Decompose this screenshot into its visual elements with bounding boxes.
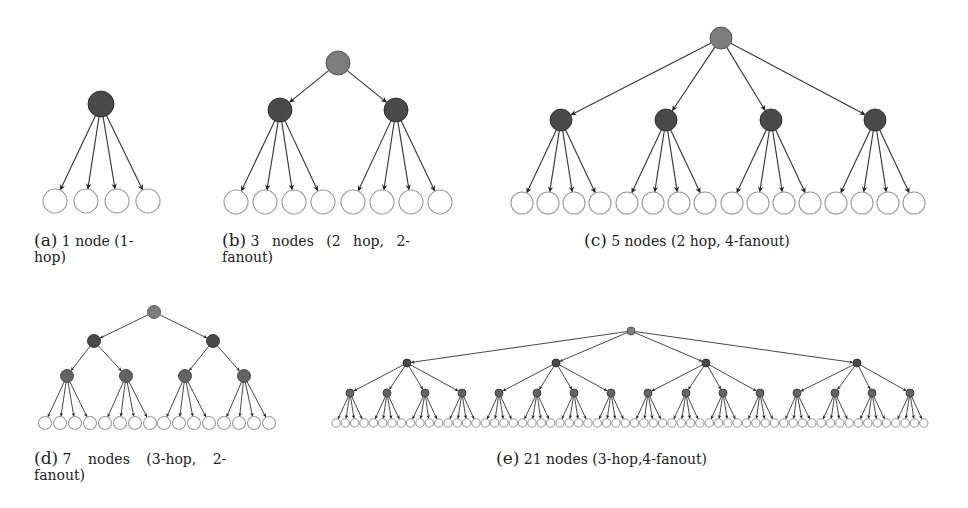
edge-arrow xyxy=(799,397,810,419)
leaf-node xyxy=(747,192,769,214)
leaf-node xyxy=(770,419,778,427)
leaf-node xyxy=(341,419,349,427)
caption-a-tag: (a) xyxy=(34,230,57,250)
root-node xyxy=(710,27,732,49)
edge-arrow xyxy=(180,382,184,416)
edge-arrow xyxy=(358,121,391,191)
caption-e-tag: (e) xyxy=(496,448,519,468)
edge-arrow xyxy=(103,117,115,189)
caption-d: (d) 7 nodes (3-hop, 2- fanout) xyxy=(34,450,304,483)
caption-a: (a) 1 node (1- hop) xyxy=(34,232,184,265)
leaf-node xyxy=(658,419,666,427)
leaf-node xyxy=(640,419,648,427)
leaf-node xyxy=(882,419,890,427)
leaf-node xyxy=(472,419,480,427)
leaf-node xyxy=(642,192,664,214)
edge-arrow xyxy=(267,122,278,190)
edge-arrow xyxy=(731,43,865,114)
internal-node xyxy=(864,109,886,131)
internal-node xyxy=(383,389,391,397)
leaf-node xyxy=(406,419,414,427)
tree-a-1-node xyxy=(43,91,160,213)
edge-arrow xyxy=(160,315,207,338)
leaf-node xyxy=(158,417,171,430)
internal-node xyxy=(756,389,764,397)
leaf-node xyxy=(360,419,368,427)
caption-e: (e) 21 nodes (3-hop,4-fanout) xyxy=(496,450,816,467)
internal-node xyxy=(550,109,572,131)
leaf-node xyxy=(43,189,67,213)
leaf-node xyxy=(490,419,498,427)
edge-arrow xyxy=(247,382,266,417)
nodes xyxy=(43,91,160,213)
leaf-node xyxy=(388,419,396,427)
leaf-node xyxy=(892,419,900,427)
leaf-node xyxy=(836,419,844,427)
leaf-node xyxy=(593,419,601,427)
edge-arrow xyxy=(354,365,403,391)
leaf-node xyxy=(399,190,423,214)
leaf-node xyxy=(724,419,732,427)
internal-node xyxy=(853,359,861,367)
edge-arrow xyxy=(650,397,661,419)
leaf-node xyxy=(54,417,67,430)
edge-arrow xyxy=(798,397,802,418)
caption-b-tag: (b) xyxy=(222,230,246,250)
leaf-node xyxy=(509,419,517,427)
root-node xyxy=(627,327,635,335)
leaf-node xyxy=(537,192,559,214)
internal-node xyxy=(570,389,578,397)
edge-arrow xyxy=(558,366,572,389)
edge-arrow xyxy=(635,333,702,362)
leaf-node xyxy=(799,192,821,214)
internal-node xyxy=(120,370,133,383)
edge-arrow xyxy=(401,121,434,191)
leaf-node xyxy=(686,419,694,427)
edge-arrow xyxy=(167,382,182,417)
leaf-node xyxy=(780,419,788,427)
internal-node xyxy=(682,389,690,397)
edge-arrow xyxy=(880,130,909,193)
edges xyxy=(48,315,266,417)
edge-arrow xyxy=(560,365,608,391)
leaf-node xyxy=(630,419,638,427)
tree-b-3-nodes xyxy=(224,51,452,214)
caption-c-line1: 5 nodes (2 hop, 4-fanout) xyxy=(611,233,790,249)
leaf-node xyxy=(253,190,277,214)
leaf-node xyxy=(612,419,620,427)
edge-arrow xyxy=(525,397,536,419)
internal-node xyxy=(644,389,652,397)
leaf-node xyxy=(105,189,129,213)
internal-node xyxy=(88,335,101,348)
leaf-node xyxy=(39,417,52,430)
leaf-node xyxy=(721,192,743,214)
leaf-node xyxy=(69,417,82,430)
edge-arrow xyxy=(217,346,239,371)
internal-node xyxy=(495,389,503,397)
caption-b-line2: fanout) xyxy=(222,249,273,265)
nodes xyxy=(332,327,928,427)
internal-node xyxy=(61,370,74,383)
edge-arrow xyxy=(841,130,870,193)
internal-node xyxy=(868,389,876,397)
leaf-node xyxy=(714,419,722,427)
leaf-node xyxy=(616,192,638,214)
edge-arrow xyxy=(672,47,714,110)
edge-arrow xyxy=(776,130,805,193)
edge-arrow xyxy=(98,346,121,371)
edge-arrow xyxy=(709,365,756,391)
edges xyxy=(60,116,142,190)
internal-node xyxy=(533,389,541,397)
edge-arrow xyxy=(671,130,700,193)
leaf-node xyxy=(462,419,470,427)
leaf-node xyxy=(752,419,760,427)
leaf-node xyxy=(248,417,261,430)
leaf-node xyxy=(434,419,442,427)
caption-e-line1: 21 nodes (3-hop,4-fanout) xyxy=(524,451,707,467)
leaf-node xyxy=(877,192,899,214)
edges xyxy=(338,332,922,419)
caption-d-line2: fanout) xyxy=(34,467,85,483)
leaf-node xyxy=(845,419,853,427)
internal-node xyxy=(238,370,251,383)
leaf-node xyxy=(817,419,825,427)
